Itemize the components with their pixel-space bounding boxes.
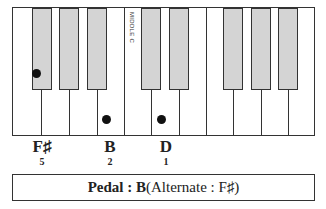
note-name: F♯ — [27, 137, 57, 157]
white-key-divider — [206, 8, 207, 135]
finger-number: 2 — [95, 156, 125, 167]
black-key — [141, 8, 161, 90]
black-key — [169, 8, 189, 90]
black-key — [278, 8, 298, 90]
key-marker-dot — [102, 115, 111, 124]
black-key — [32, 8, 52, 90]
key-marker-dot — [157, 115, 166, 124]
pedal-label: Pedal : B — [88, 179, 146, 196]
middle-c-label: MIDDLE C — [129, 12, 135, 43]
pedal-alternate: (Alternate : F♯) — [146, 179, 239, 196]
note-name: B — [95, 137, 125, 157]
black-key — [87, 8, 107, 90]
black-key — [251, 8, 271, 90]
white-key-divider — [124, 8, 125, 135]
note-name: D — [151, 137, 181, 157]
key-marker-dot — [32, 69, 41, 78]
finger-number: 5 — [27, 156, 57, 167]
finger-number: 1 — [151, 156, 181, 167]
black-key — [59, 8, 79, 90]
pedal-box: Pedal : B (Alternate : F♯) — [12, 174, 315, 201]
black-key — [223, 8, 243, 90]
